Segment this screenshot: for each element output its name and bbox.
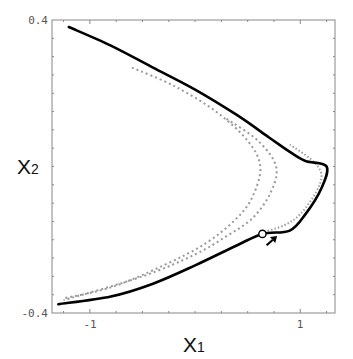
y-tick-bottom: -0.4 (22, 307, 49, 320)
axis-ticks (52, 20, 335, 313)
y-axis-label: X 2 (17, 155, 39, 178)
open-circle-marker (259, 230, 266, 237)
y-tick-top: 0.4 (28, 14, 48, 27)
plot-frame (52, 20, 335, 313)
x-tick-right: 1 (297, 318, 304, 331)
x-axis-label: X 1 (183, 333, 205, 356)
svg-text:2: 2 (31, 161, 39, 177)
arrow-icon (267, 236, 278, 245)
dotted-outer-curve (262, 145, 321, 233)
dotted-inner-curve (64, 68, 261, 299)
svg-text:X: X (17, 155, 31, 178)
svg-text:X: X (183, 333, 197, 356)
dotted-middle-curve (64, 119, 277, 300)
svg-text:1: 1 (197, 339, 205, 355)
solid-curve (58, 27, 327, 304)
chart: 0.4 -0.4 -1 1 X 1 X 2 (0, 0, 353, 359)
x-tick-left: -1 (83, 318, 96, 331)
